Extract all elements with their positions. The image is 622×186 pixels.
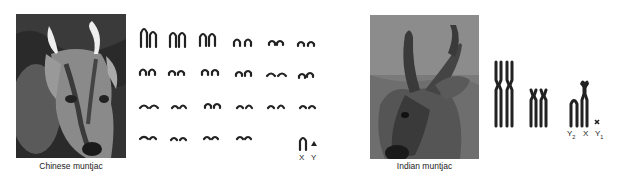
deer-photo-icon [16,14,126,158]
chinese-y-label: Y [311,153,316,162]
chinese-x-label: X [299,153,304,162]
indian-y2-label: Y2 [567,129,575,140]
deer-photo-icon [370,15,479,159]
karyotype-chromosome-icons [130,20,330,170]
chinese-muntjac-photo [16,14,126,158]
indian-y1-label: Y1 [595,129,603,140]
karyotype-chromosome-icons [490,60,620,140]
chinese-muntjac-caption: Chinese muntjac [16,161,126,171]
indian-x-label: X [583,129,588,138]
indian-muntjac-photo [370,15,479,159]
indian-muntjac-caption: Indian muntjac [370,161,479,171]
